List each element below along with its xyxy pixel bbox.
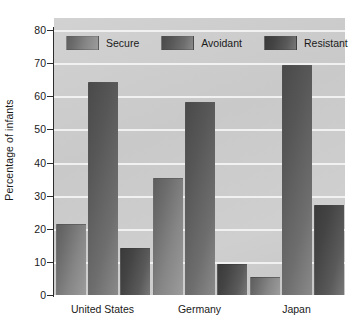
y-tick-mark xyxy=(47,196,53,197)
y-tick-mark xyxy=(47,163,53,164)
legend-item-resistant: Resistant xyxy=(264,36,348,50)
y-tick-label: 30 xyxy=(18,191,46,202)
y-tick-mark xyxy=(47,129,53,130)
chart-legend: SecureAvoidantResistant xyxy=(66,36,348,50)
y-axis-line xyxy=(53,27,54,297)
bar-resistant-united-states xyxy=(120,248,150,295)
y-tick-label: 10 xyxy=(18,257,46,268)
y-tick-mark xyxy=(47,96,53,97)
y-tick-mark xyxy=(47,262,53,263)
resistant-swatch xyxy=(264,36,297,50)
legend-item-avoidant: Avoidant xyxy=(161,36,264,50)
y-tick-label: 50 xyxy=(18,124,46,135)
secure-swatch xyxy=(66,36,99,50)
y-axis-title-text: Percentage of infants xyxy=(3,99,15,200)
legend-item-secure: Secure xyxy=(66,36,161,50)
y-tick-label: 40 xyxy=(18,158,46,169)
bar-secure-united-states xyxy=(56,224,86,295)
x-axis-label-united-states: United States xyxy=(54,303,151,315)
y-tick-mark xyxy=(47,30,53,31)
y-axis-title: Percentage of infants xyxy=(0,0,18,300)
bar-resistant-germany xyxy=(217,264,247,295)
avoidant-swatch xyxy=(161,36,194,50)
y-tick-mark xyxy=(47,63,53,64)
bar-avoidant-united-states xyxy=(88,82,118,295)
x-axis-label-japan: Japan xyxy=(248,303,345,315)
x-axis-label-germany: Germany xyxy=(151,303,248,315)
y-tick-label: 20 xyxy=(18,224,46,235)
y-tick-label: 60 xyxy=(18,91,46,102)
y-tick-mark xyxy=(47,295,53,296)
legend-label-resistant: Resistant xyxy=(304,37,348,49)
bar-secure-germany xyxy=(153,178,183,295)
legend-label-avoidant: Avoidant xyxy=(201,37,242,49)
bar-avoidant-japan xyxy=(282,65,312,295)
bar-chart: Percentage of infants 80706050403020100 … xyxy=(0,0,357,329)
gridline xyxy=(54,30,345,32)
y-tick-label: 0 xyxy=(18,290,46,301)
y-tick-label: 70 xyxy=(18,58,46,69)
y-tick-label: 80 xyxy=(18,25,46,36)
bar-avoidant-germany xyxy=(185,102,215,295)
y-tick-mark xyxy=(47,229,53,230)
bar-secure-japan xyxy=(250,277,280,295)
plot-area xyxy=(54,18,345,295)
bar-resistant-japan xyxy=(314,205,344,295)
legend-label-secure: Secure xyxy=(106,37,139,49)
